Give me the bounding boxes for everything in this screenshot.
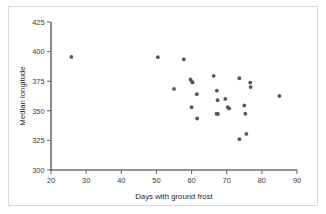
data-point [249, 85, 253, 89]
y-tick-label: 400 [32, 47, 44, 56]
y-axis-title: Median longitude [18, 66, 27, 125]
y-tick-label: 350 [32, 107, 44, 116]
data-point [278, 94, 282, 98]
y-tick-label: 375 [32, 77, 44, 86]
data-point [215, 89, 219, 93]
x-tick-label: 40 [117, 176, 125, 185]
plot-area: 300325350375400425 2030405060708090 Days… [0, 0, 326, 214]
data-point [69, 55, 73, 59]
data-point [190, 105, 194, 109]
data-point [195, 92, 199, 96]
data-point [195, 117, 199, 121]
data-point [172, 87, 176, 91]
x-tick-label: 30 [82, 176, 90, 185]
x-tick-label: 70 [223, 176, 231, 185]
data-point [156, 55, 160, 59]
x-tick-label: 60 [187, 176, 195, 185]
data-point [182, 57, 186, 61]
scatter-plot-figure: 300325350375400425 2030405060708090 Days… [0, 0, 326, 214]
data-point [191, 80, 195, 84]
x-tick-label: 20 [47, 176, 55, 185]
data-points-layer [69, 55, 281, 141]
data-point [243, 112, 247, 116]
data-point [242, 104, 246, 108]
data-point [223, 97, 227, 101]
data-point [216, 112, 220, 116]
y-tick-label: 325 [32, 136, 44, 145]
data-point [227, 107, 231, 111]
y-tick-label: 300 [32, 166, 44, 175]
x-axis-title: Days with ground frost [135, 192, 213, 201]
x-axis-ticks: 2030405060708090 [47, 170, 301, 185]
y-tick-label: 425 [32, 18, 44, 27]
data-point [248, 81, 252, 85]
x-tick-label: 80 [258, 176, 266, 185]
data-point [244, 132, 248, 136]
data-point [216, 98, 220, 102]
chart-canvas: 300325350375400425 2030405060708090 Days… [0, 0, 326, 214]
x-tick-label: 50 [152, 176, 160, 185]
x-tick-label: 90 [293, 176, 301, 185]
y-axis-ticks: 300325350375400425 [32, 18, 51, 175]
data-point [212, 74, 216, 78]
data-point [237, 137, 241, 141]
data-point [237, 76, 241, 80]
